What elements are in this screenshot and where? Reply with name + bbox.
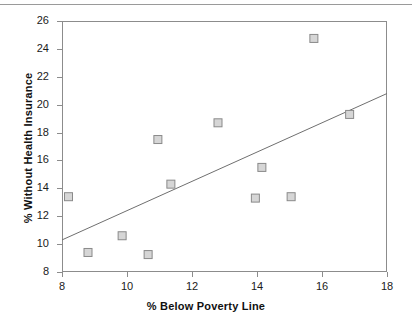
x-axis-tick-label: 14 — [242, 280, 272, 292]
data-point-marker — [346, 110, 354, 118]
data-point-marker — [144, 251, 152, 259]
y-axis-tick-mark — [57, 216, 62, 217]
data-point-marker — [65, 193, 73, 201]
data-point-marker — [84, 248, 92, 256]
y-axis-tick-label: 8 — [9, 265, 49, 277]
y-axis-tick-mark — [57, 21, 62, 22]
data-point-marker — [118, 232, 126, 240]
data-point-marker — [167, 180, 175, 188]
x-axis-tick-label: 8 — [47, 280, 77, 292]
y-axis-tick-mark — [57, 160, 62, 161]
trend-line — [62, 94, 387, 240]
y-axis-tick-label: 26 — [9, 14, 49, 26]
data-point-marker — [154, 136, 162, 144]
data-point-marker — [251, 194, 259, 202]
data-point-marker — [258, 163, 266, 171]
x-axis-tick-mark — [257, 272, 258, 277]
x-axis-tick-mark — [127, 272, 128, 277]
top-divider-rule — [0, 4, 412, 5]
data-point-marker — [214, 119, 222, 127]
x-axis-tick-mark — [322, 272, 323, 277]
x-axis-tick-mark — [192, 272, 193, 277]
y-axis-tick-mark — [57, 77, 62, 78]
y-axis-tick-mark — [57, 188, 62, 189]
x-axis-tick-mark — [387, 272, 388, 277]
x-axis-tick-label: 12 — [177, 280, 207, 292]
plot-canvas — [62, 21, 387, 272]
scatter-chart: 8101214161820222426 81012141618 % Below … — [0, 0, 412, 326]
y-axis-tick-mark — [57, 49, 62, 50]
x-axis-tick-label: 18 — [372, 280, 402, 292]
data-point-marker — [310, 34, 318, 42]
x-axis-tick-label: 10 — [112, 280, 142, 292]
y-axis-tick-mark — [57, 133, 62, 134]
y-axis-title: % Without Health Insurance — [22, 38, 34, 258]
x-axis-tick-label: 16 — [307, 280, 337, 292]
data-point-marker — [287, 193, 295, 201]
x-axis-tick-mark — [62, 272, 63, 277]
y-axis-tick-mark — [57, 105, 62, 106]
y-axis-tick-mark — [57, 244, 62, 245]
x-axis-title: % Below Poverty Line — [0, 300, 412, 312]
